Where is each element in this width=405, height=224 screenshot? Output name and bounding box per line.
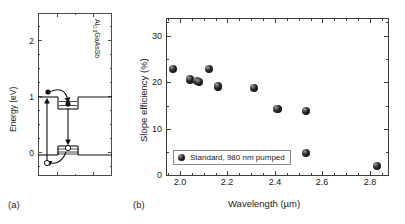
hole-carrier-confined xyxy=(65,145,70,150)
legend-marker-icon xyxy=(178,154,185,161)
panel-b-scatter-chart: Wavelength (µm) Slope efficiency (%) xyxy=(130,0,405,224)
figure-canvas: Energy (eV) 0 1 2 xyxy=(0,0,405,224)
hole-carrier xyxy=(44,160,49,165)
x-tick-label-2p2: 2.2 xyxy=(212,177,242,187)
panel-a-ytick-label-2: 2 xyxy=(22,36,34,46)
electron-carrier-confined xyxy=(65,101,70,106)
x-tick-label-2p6: 2.6 xyxy=(307,177,337,187)
x-tick-label-2p4: 2.4 xyxy=(260,177,290,187)
scatter-point xyxy=(302,149,310,157)
panel-a-ytick-label-1: 1 xyxy=(22,92,34,102)
panel-a-caption-label: (a) xyxy=(8,199,20,210)
x-tick-label-2p8: 2.8 xyxy=(355,177,385,187)
chart-legend: Standard, 980 nm pumped xyxy=(173,150,291,165)
electron-carrier xyxy=(45,89,50,94)
legend-label: Standard, 980 nm pumped xyxy=(190,153,285,162)
scatter-point xyxy=(214,82,222,90)
scatter-point xyxy=(195,78,203,86)
scatter-point xyxy=(169,65,177,73)
scatter-point xyxy=(302,107,310,115)
y-tick-label-10: 10 xyxy=(144,124,162,134)
x-tick-label-2p0: 2.0 xyxy=(165,177,195,187)
panel-b-caption-label: (b) xyxy=(133,199,145,210)
scatter-point xyxy=(373,162,381,170)
x-axis-label: Wavelength (µm) xyxy=(228,198,300,209)
scatter-point xyxy=(273,105,281,113)
band-structure-drawing xyxy=(38,13,112,176)
panel-a-y-axis-label: Energy (eV) xyxy=(8,87,18,132)
panel-a-ytick-label-0: 0 xyxy=(22,148,34,158)
y-tick-label-30: 30 xyxy=(144,31,162,41)
panel-a-band-diagram: Energy (eV) 0 1 2 xyxy=(0,0,130,224)
y-tick-label-0: 0 xyxy=(144,170,162,180)
scatter-point xyxy=(250,84,258,92)
y-tick-label-20: 20 xyxy=(144,77,162,87)
scatter-point xyxy=(205,65,213,73)
conduction-band-edge xyxy=(38,97,112,109)
